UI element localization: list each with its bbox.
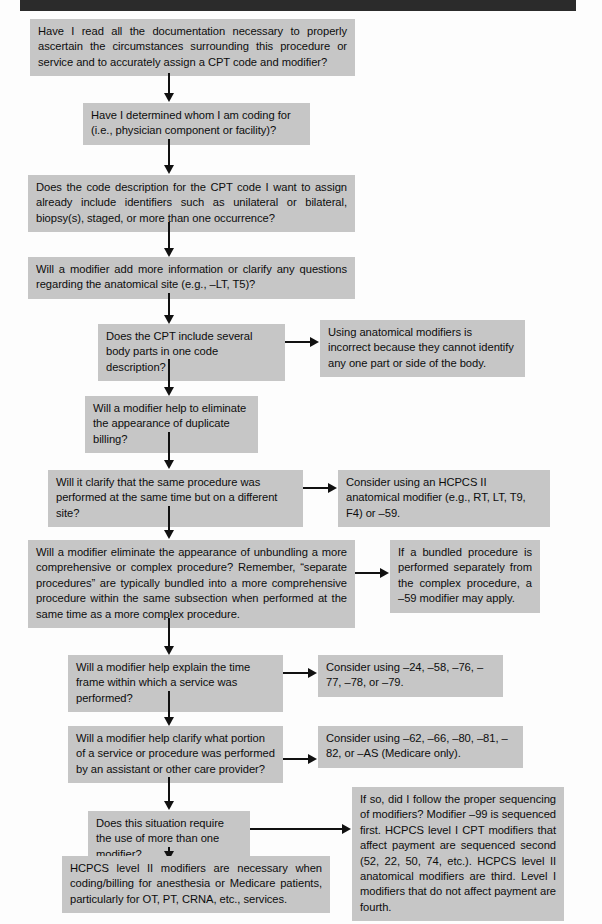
flow-node-q2-text: Have I determined whom I am coding for (… bbox=[91, 108, 302, 139]
flow-node-q12: HCPCS level II modifiers are necessary w… bbox=[62, 856, 330, 913]
flow-node-q5-text: Does the CPT include several body parts … bbox=[106, 329, 277, 375]
flow-node-q6-text: Will a modifier help to eliminate the ap… bbox=[93, 401, 250, 447]
flowchart-page: Have I read all the documentation necess… bbox=[0, 0, 602, 924]
flow-node-q7-text: Will it clarify that the same procedure … bbox=[56, 475, 295, 521]
arrowhead-q10-to-a10 bbox=[308, 754, 317, 764]
arrowhead-q2-to-q3 bbox=[164, 165, 174, 174]
flow-node-a10: Consider using –62, –66, –80, –81, –82, … bbox=[318, 726, 523, 768]
flow-node-q3-text: Does the code description for the CPT co… bbox=[36, 180, 347, 226]
flow-node-q3: Does the code description for the CPT co… bbox=[28, 175, 355, 232]
arrowhead-q8-to-q9 bbox=[164, 646, 174, 655]
flow-node-a9-text: Consider using –24, –58, –76, –77, –78, … bbox=[326, 660, 495, 691]
arrowhead-q8-to-a8 bbox=[380, 568, 389, 578]
arrowhead-q5-to-q6 bbox=[164, 387, 174, 396]
flow-node-q5: Does the CPT include several body parts … bbox=[98, 324, 285, 381]
arrowhead-q9-to-q10 bbox=[164, 717, 174, 726]
flow-node-q12-text: HCPCS level II modifiers are necessary w… bbox=[70, 861, 322, 907]
arrowhead-q4-to-q5 bbox=[164, 315, 174, 324]
flow-node-a7: Consider using an HCPCS II anatomical mo… bbox=[338, 470, 550, 527]
connector-q11-to-a11 bbox=[250, 828, 346, 830]
flow-node-q7: Will it clarify that the same procedure … bbox=[48, 470, 303, 527]
arrowhead-q3-to-q4 bbox=[164, 248, 174, 257]
flow-node-a8: If a bundled procedure is performed sepa… bbox=[390, 540, 540, 613]
arrowhead-q7-to-a7 bbox=[328, 483, 337, 493]
flow-node-a5-text: Using anatomical modifiers is incorrect … bbox=[328, 325, 517, 371]
flow-node-q9-text: Will a modifier help explain the time fr… bbox=[76, 660, 275, 706]
arrowhead-q7-to-q8 bbox=[164, 530, 174, 539]
flow-node-q10-text: Will a modifier help clarify what portio… bbox=[76, 731, 275, 777]
connector-q2-to-q3 bbox=[168, 139, 170, 167]
flow-node-q1: Have I read all the documentation necess… bbox=[30, 19, 355, 76]
arrowhead-q10-to-q11 bbox=[164, 801, 174, 810]
flow-node-q6: Will a modifier help to eliminate the ap… bbox=[85, 396, 258, 453]
flow-node-q9: Will a modifier help explain the time fr… bbox=[68, 655, 283, 712]
arrowhead-q9-to-a9 bbox=[308, 668, 317, 678]
flow-node-a10-text: Consider using –62, –66, –80, –81, –82, … bbox=[326, 731, 515, 762]
flow-node-q4-text: Will a modifier add more information or … bbox=[36, 262, 347, 293]
arrowhead-q1-to-q2 bbox=[164, 93, 174, 102]
flow-node-q10: Will a modifier help clarify what portio… bbox=[68, 726, 283, 783]
page-header-rule bbox=[20, 0, 576, 11]
flow-node-a5: Using anatomical modifiers is incorrect … bbox=[320, 320, 525, 377]
arrowhead-q5-to-a5 bbox=[310, 337, 319, 347]
flow-node-q8: Will a modifier eliminate the appearance… bbox=[28, 540, 355, 628]
flow-node-q1-text: Have I read all the documentation necess… bbox=[38, 24, 347, 70]
flow-node-a8-text: If a bundled procedure is performed sepa… bbox=[398, 545, 532, 607]
flow-node-q8-text: Will a modifier eliminate the appearance… bbox=[36, 545, 347, 622]
flow-node-a7-text: Consider using an HCPCS II anatomical mo… bbox=[346, 475, 542, 521]
flow-node-a11-text: If so, did I follow the proper sequencin… bbox=[360, 792, 556, 915]
flow-node-a9: Consider using –24, –58, –76, –77, –78, … bbox=[318, 655, 503, 697]
flow-node-a11: If so, did I follow the proper sequencin… bbox=[352, 787, 564, 921]
arrowhead-q6-to-q7 bbox=[164, 460, 174, 469]
connector-q1-to-q2 bbox=[168, 73, 170, 95]
flow-node-q4: Will a modifier add more information or … bbox=[28, 257, 355, 299]
flow-node-q2: Have I determined whom I am coding for (… bbox=[83, 103, 310, 145]
arrowhead-q11-to-a11 bbox=[342, 824, 351, 834]
